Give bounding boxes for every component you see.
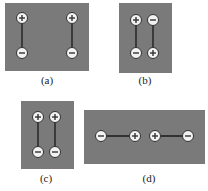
positive-charge-icon bbox=[67, 13, 78, 24]
dipole-d-right bbox=[150, 131, 194, 142]
negative-charge-icon bbox=[131, 48, 142, 59]
dipole-b-left bbox=[131, 15, 142, 59]
positive-charge-icon bbox=[33, 112, 44, 123]
dipole-c-right bbox=[50, 112, 61, 158]
panel-label-d: (d) bbox=[134, 172, 164, 184]
panel-label-b: (b) bbox=[130, 74, 160, 86]
dipole-a-left bbox=[17, 13, 28, 59]
negative-charge-icon bbox=[67, 48, 78, 59]
negative-charge-icon bbox=[96, 131, 107, 142]
dipole-d-left bbox=[96, 131, 141, 142]
negative-charge-icon bbox=[148, 15, 159, 26]
positive-charge-icon bbox=[17, 13, 28, 24]
dipole-c-left bbox=[33, 112, 44, 158]
negative-charge-icon bbox=[183, 131, 194, 142]
positive-charge-icon bbox=[50, 112, 61, 123]
dipole-b-right bbox=[148, 15, 159, 59]
positive-charge-icon bbox=[148, 48, 159, 59]
panel-label-a: (a) bbox=[32, 74, 62, 86]
positive-charge-icon bbox=[150, 131, 161, 142]
dipole-diagram bbox=[0, 0, 208, 191]
panel-label-c: (c) bbox=[31, 172, 61, 184]
negative-charge-icon bbox=[50, 147, 61, 158]
positive-charge-icon bbox=[130, 131, 141, 142]
negative-charge-icon bbox=[33, 147, 44, 158]
positive-charge-icon bbox=[131, 15, 142, 26]
dipole-a-right bbox=[67, 13, 78, 59]
negative-charge-icon bbox=[17, 48, 28, 59]
